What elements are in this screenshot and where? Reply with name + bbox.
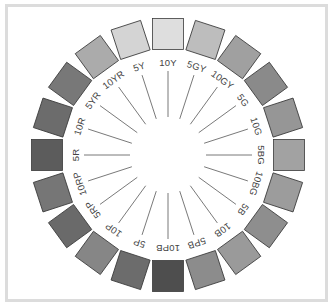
- spoke-5y: [142, 75, 156, 119]
- label-10yr: 10YR: [100, 68, 126, 91]
- spoke-10gy: [190, 87, 217, 124]
- spoke-10rp: [88, 167, 132, 181]
- spoke-5g: [199, 106, 236, 133]
- swatch-10rp: [33, 173, 72, 212]
- spoke-5b: [199, 177, 236, 204]
- swatch-10p: [75, 231, 118, 274]
- label-5r: 5R: [70, 149, 81, 162]
- spoke-ring: [84, 71, 252, 239]
- label-5pb: 5PB: [186, 235, 207, 251]
- swatch-10gy: [217, 35, 260, 78]
- spoke-10bg: [204, 167, 248, 181]
- label-10rp: 10RP: [71, 170, 89, 197]
- label-5p: 5P: [132, 236, 147, 250]
- label-10bg: 10BG: [247, 170, 265, 197]
- swatch-5p: [111, 251, 150, 290]
- hue-wheel: 10Y5GY10GY5G10G5BG10BG5B10B5PB10PB5P10P5…: [0, 0, 334, 308]
- spoke-10g: [204, 129, 248, 143]
- label-5bg: 5BG: [256, 145, 267, 165]
- swatch-10g: [264, 98, 303, 137]
- swatch-10y: [153, 19, 184, 50]
- label-5y: 5Y: [132, 59, 147, 73]
- spoke-5p: [142, 191, 156, 235]
- label-5yr: 5YR: [83, 89, 103, 111]
- spoke-5pb: [180, 191, 194, 235]
- label-10g: 10G: [248, 116, 264, 137]
- swatch-10b: [217, 231, 260, 274]
- label-5g: 5G: [235, 92, 252, 109]
- swatch-5yr: [48, 62, 91, 105]
- label-10p: 10P: [103, 221, 124, 240]
- spoke-10r: [88, 129, 132, 143]
- swatch-5pb: [186, 251, 225, 290]
- swatch-10pb: [153, 261, 184, 292]
- swatch-10yr: [75, 35, 118, 78]
- label-5rp: 5RP: [83, 199, 103, 221]
- swatch-5r: [32, 140, 63, 171]
- label-10y: 10Y: [159, 57, 177, 68]
- spoke-10yr: [119, 87, 146, 124]
- swatch-5y: [111, 20, 150, 59]
- swatch-5rp: [48, 204, 91, 247]
- label-5b: 5B: [235, 202, 251, 218]
- swatch-5bg: [274, 140, 305, 171]
- spoke-10b: [190, 186, 217, 223]
- label-10r: 10R: [72, 116, 88, 137]
- label-10pb: 10PB: [156, 243, 180, 254]
- spoke-5rp: [100, 177, 137, 204]
- swatch-5gy: [186, 20, 225, 59]
- swatch-5b: [244, 204, 287, 247]
- swatch-5g: [244, 62, 287, 105]
- spoke-5yr: [100, 106, 137, 133]
- label-5gy: 5GY: [186, 58, 208, 75]
- swatch-10r: [33, 98, 72, 137]
- spoke-10p: [119, 186, 146, 223]
- swatch-10bg: [264, 173, 303, 212]
- spoke-5gy: [180, 75, 194, 119]
- label-10b: 10B: [212, 221, 233, 240]
